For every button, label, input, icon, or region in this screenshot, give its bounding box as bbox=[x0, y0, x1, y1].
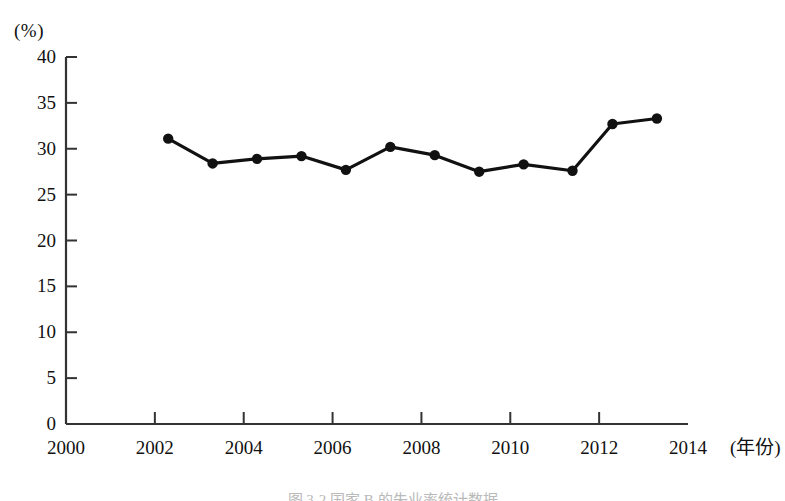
data-point bbox=[518, 159, 528, 169]
line-chart-plot bbox=[0, 0, 785, 501]
y-axis-ticks bbox=[66, 57, 77, 378]
x-tick-label: 2004 bbox=[204, 438, 284, 457]
data-point-markers bbox=[163, 113, 662, 177]
figure-container: (%) 0510152025303540 2000200220042006200… bbox=[0, 0, 785, 501]
y-tick-label: 25 bbox=[10, 185, 56, 204]
x-tick-label: 2002 bbox=[115, 438, 195, 457]
x-tick-label: 2008 bbox=[381, 438, 461, 457]
y-tick-label: 40 bbox=[10, 47, 56, 66]
figure-caption: 图 3-2 国家 B 的失业率统计数据 bbox=[0, 488, 785, 501]
data-point bbox=[430, 150, 440, 160]
y-tick-label: 35 bbox=[10, 93, 56, 112]
data-point bbox=[163, 133, 173, 143]
data-point bbox=[385, 142, 395, 152]
x-tick-label: 2000 bbox=[26, 438, 106, 457]
data-point bbox=[207, 158, 217, 168]
data-line bbox=[168, 118, 657, 171]
data-point bbox=[607, 119, 617, 129]
x-tick-label: 2012 bbox=[559, 438, 639, 457]
x-tick-label: 2014 bbox=[648, 438, 728, 457]
data-point bbox=[474, 166, 484, 176]
data-point bbox=[341, 165, 351, 175]
y-tick-label: 0 bbox=[10, 414, 56, 433]
data-point bbox=[252, 154, 262, 164]
x-tick-label: 2010 bbox=[470, 438, 550, 457]
data-point bbox=[567, 166, 577, 176]
y-tick-label: 30 bbox=[10, 139, 56, 158]
y-tick-label: 10 bbox=[10, 322, 56, 341]
x-axis-ticks bbox=[155, 412, 599, 424]
y-tick-label: 15 bbox=[10, 276, 56, 295]
x-tick-label: 2006 bbox=[293, 438, 373, 457]
y-axis-unit-label: (%) bbox=[14, 20, 44, 42]
x-axis-title: (年份) bbox=[730, 438, 781, 457]
y-tick-label: 5 bbox=[10, 368, 56, 387]
y-tick-label: 20 bbox=[10, 231, 56, 250]
data-point bbox=[652, 113, 662, 123]
data-point bbox=[296, 151, 306, 161]
chart-axes bbox=[66, 57, 688, 424]
